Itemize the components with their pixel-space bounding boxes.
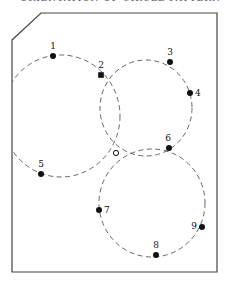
point-4: 4 [187,88,201,98]
point-2: 2 [98,60,104,78]
dot-marker-icon [50,53,56,59]
square-marker-icon [98,72,104,78]
diagram-canvas: 123456789 [0,0,226,281]
dot-marker-icon [166,145,172,151]
dashed-circle-top-right [100,60,192,156]
open-circle-icon [113,150,118,155]
point-label: 4 [195,88,201,98]
intersection-marker [113,150,118,155]
point-label: 6 [165,133,171,143]
point-8: 8 [153,240,159,258]
dot-marker-icon [96,207,102,213]
point-6: 6 [165,133,172,151]
dot-marker-icon [153,252,159,258]
point-label: 3 [167,47,173,57]
dot-marker-icon [38,171,44,177]
dot-marker-icon [187,90,193,96]
point-label: 8 [153,240,159,250]
point-label: 1 [50,41,56,51]
point-label: 7 [104,205,110,215]
point-label: 2 [98,60,104,70]
point-label: 9 [191,221,197,231]
dashed-circles [2,55,205,257]
point-1: 1 [50,41,56,59]
dot-marker-icon [167,59,173,65]
point-label: 5 [38,159,44,169]
numbered-points: 123456789 [38,41,205,258]
point-3: 3 [167,47,173,65]
dot-marker-icon [199,224,205,230]
point-5: 5 [38,159,44,177]
point-7: 7 [96,205,110,215]
dashed-circle-bottom [99,149,205,257]
